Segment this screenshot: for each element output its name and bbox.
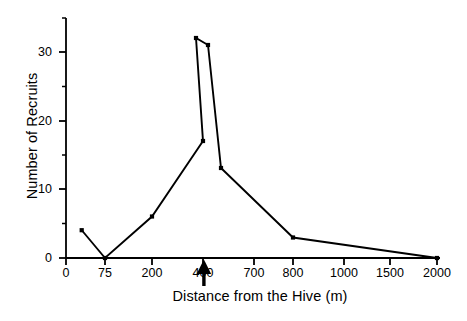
data-point-marker (435, 256, 439, 260)
x-tick-label-1500: 1500 (376, 266, 404, 280)
x-axis-title: Distance from the Hive (m) (60, 288, 460, 304)
data-series-line (82, 38, 437, 258)
x-tick-label-700: 700 (244, 266, 265, 280)
data-point-marker (80, 228, 84, 232)
x-axis-ticks (66, 258, 437, 265)
y-tick-label-30: 30 (27, 45, 52, 59)
x-tick-label-75: 75 (98, 266, 112, 280)
data-point-marker (194, 36, 198, 40)
x-tick-label-0: 0 (63, 266, 70, 280)
chart-screenshot: Number of Recruits Distance from the Hiv… (0, 0, 467, 321)
y-axis-title: Number of Recruits (24, 26, 40, 246)
x-tick-label-800: 800 (283, 266, 304, 280)
data-point-marker (201, 139, 205, 143)
data-point-marker (206, 43, 210, 47)
x-tick-label-400: 400 (193, 266, 214, 280)
x-tick-label-2000: 2000 (423, 266, 451, 280)
data-point-markers (80, 36, 440, 260)
data-point-marker (291, 235, 295, 239)
data-point-marker (219, 166, 223, 170)
y-tick-label-20: 20 (27, 114, 52, 128)
x-tick-label-1000: 1000 (330, 266, 358, 280)
y-tick-label-10: 10 (27, 182, 52, 196)
y-tick-label-0: 0 (34, 251, 52, 265)
data-point-marker (103, 256, 107, 260)
data-point-marker (150, 214, 154, 218)
x-tick-label-200: 200 (142, 266, 163, 280)
